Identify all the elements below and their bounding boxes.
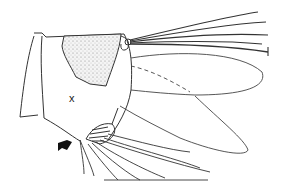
- lobes: [120, 54, 263, 154]
- stippled-sclerite: [62, 34, 121, 86]
- upper-bristles: [130, 12, 268, 56]
- arrow-icon: [58, 140, 72, 151]
- anatomical-line-drawing: x: [0, 0, 282, 183]
- lower-joint: [86, 108, 118, 144]
- region-label-x: x: [69, 92, 75, 104]
- drawing-canvas: [0, 0, 282, 183]
